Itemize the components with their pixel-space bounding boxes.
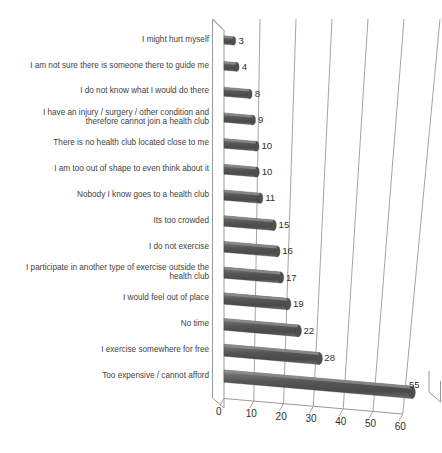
gridline [373, 19, 404, 411]
x-tick-label: 10 [246, 408, 257, 419]
value-label: 4 [242, 61, 247, 72]
category-label: I have an injury / surgery / other condi… [6, 108, 209, 127]
value-label: 15 [279, 219, 290, 230]
category-label: Its too crowded [6, 216, 209, 226]
bar [224, 87, 252, 98]
y-axis-wall [213, 19, 225, 408]
value-label: 9 [258, 114, 263, 125]
value-label: 55 [409, 379, 420, 390]
bar [224, 36, 236, 45]
bar [224, 216, 276, 231]
x-tick [309, 406, 313, 413]
value-label: 11 [265, 192, 275, 203]
x-tick [369, 411, 373, 418]
category-label: I would feel out of place [6, 293, 209, 303]
category-label: I participate in another type of exercis… [6, 263, 209, 282]
bar-chart: I might hurt myselfI am not sure there i… [0, 0, 442, 453]
value-label: 16 [282, 245, 293, 256]
x-axis-right-edge [429, 371, 441, 402]
category-label: There is no health club located close to… [6, 138, 209, 148]
bar [224, 370, 415, 399]
category-label: Nobody I know goes to a health club [6, 190, 209, 200]
value-label: 22 [303, 325, 314, 336]
bar [224, 164, 259, 177]
bar [224, 113, 256, 125]
category-label: Too expensive / cannot afford [6, 371, 209, 381]
bar [224, 241, 280, 256]
category-label: I am not sure there is someone there to … [6, 61, 209, 71]
gridline [284, 19, 296, 404]
x-tick-label: 40 [335, 416, 346, 427]
x-tick-label: 50 [365, 418, 376, 429]
bar [224, 344, 322, 364]
value-label: 10 [262, 166, 273, 177]
x-tick-label: 20 [276, 411, 287, 422]
bar [224, 62, 239, 72]
gridline [313, 19, 332, 406]
x-tick-label: 60 [395, 421, 406, 432]
value-label: 28 [324, 352, 335, 363]
x-tick-label: 30 [305, 413, 316, 424]
x-tick [339, 409, 343, 416]
bar [224, 319, 301, 337]
category-label: I might hurt myself [6, 35, 209, 45]
value-label: 3 [239, 35, 244, 46]
gridline [403, 19, 440, 414]
gridline [343, 19, 368, 409]
category-label: I do not exercise [6, 242, 209, 252]
chart-bars [224, 36, 415, 399]
category-label: I do not know what I would do there [6, 86, 209, 96]
bar [224, 139, 259, 151]
gridline [254, 19, 260, 401]
bar [224, 267, 284, 283]
value-label: 10 [262, 140, 273, 151]
category-label: I am too out of shape to even think abou… [6, 164, 209, 174]
category-label: No time [6, 319, 209, 329]
x-tick [399, 414, 403, 421]
x-tick [250, 401, 254, 408]
bar [224, 293, 291, 310]
x-tick [280, 404, 284, 411]
category-label: I exercise somewhere for free [6, 345, 209, 355]
x-tick-label: 0 [216, 406, 222, 417]
value-label: 8 [255, 88, 260, 99]
value-label: 19 [293, 298, 304, 309]
value-label: 17 [286, 272, 297, 283]
